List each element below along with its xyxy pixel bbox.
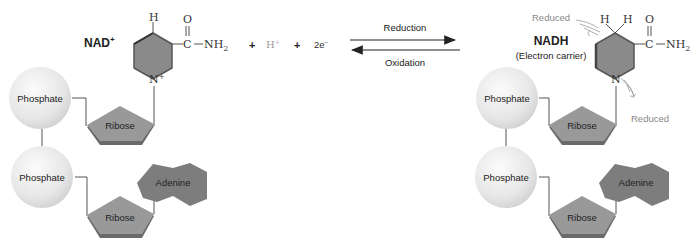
amide-label: NH2 <box>666 38 690 53</box>
carbon-label: C <box>183 38 191 51</box>
plus-sign-1: + <box>249 39 255 51</box>
nicotinamide-ring: H C O NH2 N+ <box>134 11 228 126</box>
hand-pointer-icon-bottom <box>621 78 636 98</box>
ribose-bottom: Ribose <box>87 196 154 238</box>
hydrogen-label: H <box>149 11 159 24</box>
electrons-label: 2e− <box>314 39 329 50</box>
ribose-label-bottom: Ribose <box>105 212 135 223</box>
ribose-top: Ribose <box>549 106 616 145</box>
ribose-bottom: Ribose <box>549 196 616 238</box>
ribose-label-top: Ribose <box>567 120 597 131</box>
ribose-label-top: Ribose <box>105 120 135 131</box>
nadh-molecule: NADH (Electron carrier) Reduced H H C O … <box>475 12 690 238</box>
oxidation-label: Oxidation <box>385 57 425 68</box>
nadh-title: NADH <box>534 34 569 48</box>
dihydropyridine-ring: H H C O NH2 N <box>596 13 690 126</box>
plus-sign-2: + <box>294 39 300 51</box>
nitrogen-label: N+ <box>149 73 165 86</box>
oxygen-label: O <box>183 13 192 26</box>
nad-redox-diagram: NAD+ H C O NH2 N+ Phosphate Ribose <box>0 0 698 250</box>
reduction-label: Reduction <box>384 22 427 33</box>
reduced-label-top: Reduced <box>532 12 570 23</box>
nadh-subtitle: (Electron carrier) <box>516 50 587 61</box>
adenine: Adenine <box>599 163 669 206</box>
adenine: Adenine <box>137 163 207 206</box>
phosphate-label-top: Phosphate <box>484 93 529 104</box>
nitrogen-label: N <box>611 73 621 86</box>
phosphate-label-bottom: Phosphate <box>19 172 64 183</box>
adenine-label: Adenine <box>156 177 191 188</box>
carbon-label: C <box>645 38 653 51</box>
proton-label: H+ <box>266 38 280 50</box>
hydrogen-label-1: H <box>600 13 610 26</box>
hydrogen-label-2: H <box>623 13 633 26</box>
phosphate-label-bottom: Phosphate <box>483 172 528 183</box>
ribose-label-bottom: Ribose <box>567 212 597 223</box>
adenine-label: Adenine <box>619 177 654 188</box>
hand-pointer-icon-top <box>576 20 600 36</box>
phosphate-label-top: Phosphate <box>17 93 62 104</box>
ribose-top: Ribose <box>87 106 154 145</box>
oxygen-label: O <box>645 13 654 26</box>
amide-label: NH2 <box>204 38 228 53</box>
nad-title: NAD+ <box>84 35 115 50</box>
nad-plus-molecule: NAD+ H C O NH2 N+ Phosphate Ribose <box>9 11 228 238</box>
reaction: + H+ + 2e− Reduction Oxidation <box>249 22 460 68</box>
reduced-label-bottom: Reduced <box>631 113 669 124</box>
